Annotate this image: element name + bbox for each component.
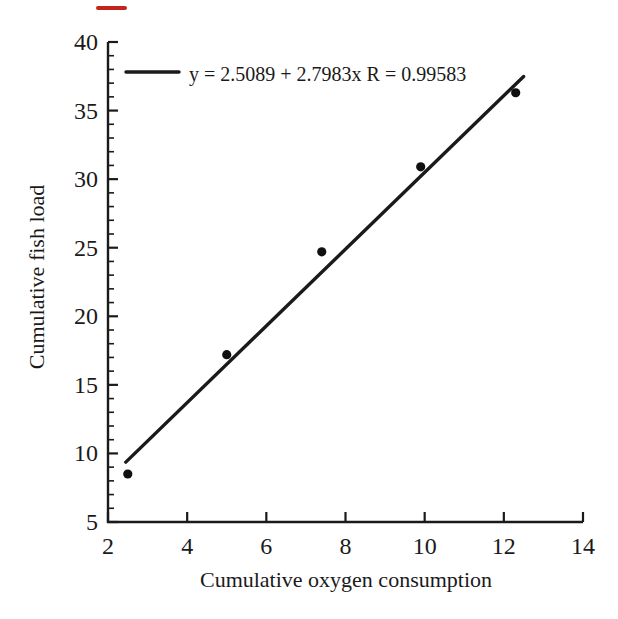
- axis-spines: [108, 42, 583, 522]
- y-axis-tick-label: 5: [86, 509, 98, 535]
- y-axis-tick-label: 40: [74, 29, 98, 55]
- data-point: [123, 469, 132, 478]
- x-axis-tick-label: 14: [571, 533, 595, 559]
- data-point: [416, 162, 425, 171]
- x-axis-tick-label: 10: [413, 533, 437, 559]
- x-axis-tick-label: 4: [181, 533, 193, 559]
- y-axis-tick-label: 15: [74, 372, 98, 398]
- y-axis-tick-label: 35: [74, 98, 98, 124]
- x-axis-title: Cumulative oxygen consumption: [200, 567, 492, 592]
- scatter-plot-figure: 5101520253035402468101214 y = 2.5089 + 2…: [0, 0, 618, 619]
- y-axis-tick-label: 30: [74, 166, 98, 192]
- data-point: [222, 350, 231, 359]
- regression-line: [126, 76, 524, 462]
- data-point: [317, 247, 326, 256]
- x-axis-tick-label: 12: [492, 533, 516, 559]
- legend-equation-label: y = 2.5089 + 2.7983x R = 0.99583: [189, 63, 466, 86]
- y-axis-tick-label: 25: [74, 235, 98, 261]
- x-axis-tick-label: 8: [340, 533, 352, 559]
- scatter-plot: 5101520253035402468101214 y = 2.5089 + 2…: [0, 0, 618, 619]
- y-axis-tick-label: 10: [74, 440, 98, 466]
- y-axis-tick-label: 20: [74, 303, 98, 329]
- x-axis-tick-label: 2: [102, 533, 114, 559]
- x-axis-tick-label: 6: [260, 533, 272, 559]
- chart-layer: 5101520253035402468101214: [74, 29, 595, 559]
- y-axis-title: Cumulative fish load: [24, 185, 49, 370]
- data-point: [511, 88, 520, 97]
